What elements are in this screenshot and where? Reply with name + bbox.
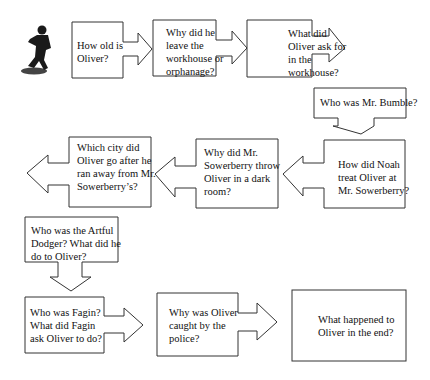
- node-5-text: How did Noah treat Oliver at Mr. Sowerbe…: [338, 158, 409, 197]
- node-11-text: What happened to Oliver in the end?: [318, 313, 394, 339]
- node-1-text: How old is Oliver?: [77, 39, 123, 65]
- node-8-text: Who was the Artful Dodger? What did he d…: [31, 224, 121, 263]
- node-3-text: What did Oliver ask for in the workhouse…: [288, 27, 346, 79]
- node-4-text: Who was Mr. Bumble?: [320, 96, 417, 109]
- node-9-text: Who was Fagin? What did Fagin ask Oliver…: [30, 306, 102, 345]
- node-10-text: Why was Oliver caught by the police?: [169, 306, 238, 345]
- node-6-text: Why did Mr. Sowerberry throw Oliver in a…: [204, 146, 280, 198]
- node-4-shape: [314, 88, 406, 134]
- node-7-text: Which city did Oliver go after he ran aw…: [77, 141, 156, 193]
- node-2-text: Why did he leave the workhouse or orphan…: [166, 26, 223, 78]
- flowchart-canvas: How old is Oliver? Why did he leave the …: [0, 0, 430, 380]
